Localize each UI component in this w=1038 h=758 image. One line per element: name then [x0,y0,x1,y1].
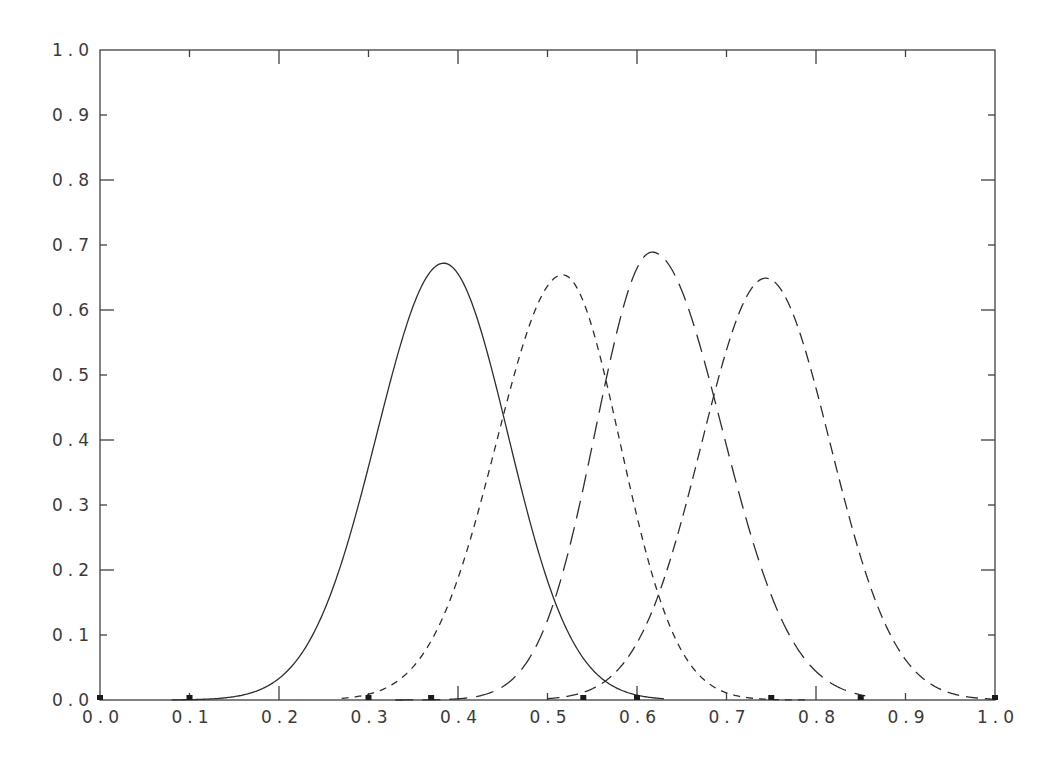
axis-marker-square [428,695,434,700]
x-tick-label: 0.4 [440,707,482,727]
y-tick-label: 0.6 [52,300,94,320]
x-tick-label: 0.7 [708,707,750,727]
y-tick-label: 0.5 [52,365,94,385]
axis-marker-square [768,695,774,700]
curve-1-line [172,263,664,700]
x-tick-label: 0.0 [82,707,124,727]
curves [172,252,995,700]
x-tick-label: 1.0 [977,707,1019,727]
plot-frame [100,50,995,700]
x-tick-label: 0.3 [350,707,392,727]
x-tick-label: 0.2 [261,707,303,727]
axis-marker-square [580,695,586,700]
y-tick-label: 0.4 [52,430,94,450]
y-axis-tick-labels: 0.00.10.20.30.40.50.60.70.80.91.0 [52,40,94,710]
x-tick-label: 0.8 [798,707,840,727]
curve-2-line [342,275,807,700]
y-tick-label: 0.9 [52,105,94,125]
x-tick-label: 0.6 [619,707,661,727]
y-tick-label: 0.8 [52,170,94,190]
axis-marker-square [992,695,998,700]
y-tick-label: 0.3 [52,495,94,515]
y-tick-label: 1.0 [52,40,94,60]
y-tick-label: 0.1 [52,625,94,645]
curve-4-line [548,278,995,699]
y-tick-label: 0.7 [52,235,94,255]
axis-marker-square [858,695,864,700]
chart-plot: 0.00.10.20.30.40.50.60.70.80.91.0 0.00.1… [0,0,1038,758]
x-tick-label: 0.5 [529,707,571,727]
x-axis-tick-labels: 0.00.10.20.30.40.50.60.70.80.91.0 [82,707,1019,727]
axis-ticks [100,50,995,700]
x-tick-label: 0.1 [171,707,213,727]
axis-marker-square [634,695,640,700]
axis-marker-square [366,695,372,700]
x-tick-label: 0.9 [887,707,929,727]
y-tick-label: 0.2 [52,560,94,580]
axis-marker-square [187,695,193,700]
axis-marker-square [97,695,103,700]
